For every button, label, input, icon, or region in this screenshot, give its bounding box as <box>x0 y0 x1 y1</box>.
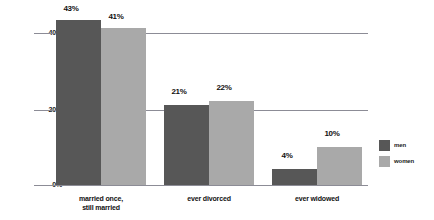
category-label-ever-divorced: ever divorced <box>159 194 259 203</box>
chart-screenshot: 40% 20% 0% 43% 41% 21% 22% 4% 10% marrie… <box>0 0 434 220</box>
tick-mark-20 <box>34 110 40 111</box>
legend-label-men: men <box>394 142 406 149</box>
bar-men-ever-widowed[interactable] <box>272 169 317 185</box>
tick-mark-40 <box>34 33 40 34</box>
value-label-men-ever-divorced: 21% <box>154 87 204 96</box>
category-label-ever-widowed: ever widowed <box>267 194 367 203</box>
value-label-women-ever-divorced: 22% <box>199 83 249 92</box>
legend-swatch-women-icon <box>379 156 390 167</box>
legend-item-women[interactable]: women <box>379 155 434 171</box>
category-label-married-once: married once, still married <box>51 194 151 212</box>
bar-women-married-once[interactable] <box>101 28 146 185</box>
bar-men-ever-divorced[interactable] <box>164 105 209 185</box>
gridline-baseline-0 <box>40 185 368 186</box>
value-label-men-ever-widowed: 4% <box>262 151 312 160</box>
tick-mark-0 <box>34 185 40 186</box>
legend-item-men[interactable]: men <box>379 139 434 155</box>
value-label-women-married-once: 41% <box>91 12 141 21</box>
bar-women-ever-divorced[interactable] <box>209 101 254 185</box>
legend-label-women: women <box>394 158 414 165</box>
bar-men-married-once[interactable] <box>56 20 101 185</box>
bar-women-ever-widowed[interactable] <box>317 147 362 185</box>
value-label-women-ever-widowed: 10% <box>307 129 357 138</box>
plot-area <box>40 10 368 185</box>
value-label-men-married-once: 43% <box>46 4 96 13</box>
legend: men women <box>379 139 434 171</box>
legend-swatch-men-icon <box>379 140 390 151</box>
